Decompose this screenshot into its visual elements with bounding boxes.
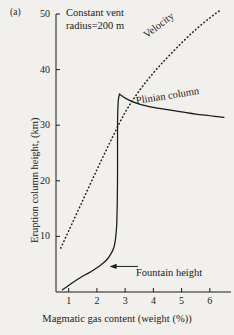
vent-annotation-line-2: radius=200 m: [66, 21, 124, 32]
x-tick-label: 6: [202, 296, 218, 306]
y-tick-label: 30: [30, 120, 50, 130]
fountain-annotation-arrowhead: [110, 264, 117, 269]
series-path-velocity: [61, 10, 221, 249]
y-axis-ticks: [56, 14, 60, 236]
series-path-fountain-height: [62, 94, 119, 290]
axes: [56, 14, 231, 292]
x-axis-title: Magmatic gas content (weight (%)): [0, 314, 234, 325]
panel-label: (a): [10, 8, 21, 18]
figure-panel: (a) Constant vent radius=200 m Velocity …: [0, 0, 234, 335]
fountain-height-curve-label: Fountain height: [136, 268, 202, 279]
x-tick-label: 2: [89, 296, 105, 306]
x-axis-ticks: [69, 288, 210, 292]
y-tick-label: 10: [30, 231, 50, 241]
x-tick-label: 3: [117, 296, 133, 306]
vent-annotation-line-1: Constant vent: [66, 8, 124, 19]
y-tick-label: 50: [30, 9, 50, 19]
y-tick-label: 20: [30, 176, 50, 186]
y-tick-label: 40: [30, 65, 50, 75]
x-tick-label: 4: [145, 296, 161, 306]
annotation-arrow: [110, 264, 138, 269]
x-tick-label: 5: [174, 296, 190, 306]
x-tick-label: 1: [61, 296, 77, 306]
data-series: [61, 10, 224, 290]
